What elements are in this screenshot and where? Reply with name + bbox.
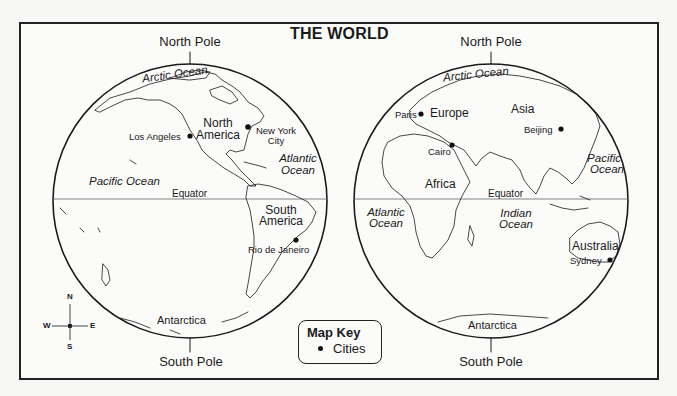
australia-label: Australia [572,240,619,253]
western-hemisphere [53,52,327,352]
city-dot-icon-new-york [245,124,251,130]
beijing-label: Beijing [524,124,553,135]
europe-label: Europe [430,107,469,120]
compass-north-label: N [67,292,73,301]
atlantic-ocean-label-east-line2: Ocean [369,217,403,230]
city-dot-icon-rio [293,237,298,242]
north-pole-label-west: North Pole [159,36,220,48]
atlantic-ocean-label-west-line2: Ocean [281,164,315,177]
south-america-label-line2: America [259,215,303,228]
equator-label-east: Equator [488,188,523,200]
south-pole-label-west: South Pole [159,356,223,368]
equator-label-west: Equator [172,188,207,200]
eastern-hemisphere [354,52,628,352]
compass-south-label: S [67,342,72,351]
pacific-ocean-label-west: Pacific Ocean [89,175,160,188]
los-angeles-label: Los Angeles [129,131,181,142]
north-america-label-line2: America [196,129,240,142]
cairo-label: Cairo [428,146,451,157]
pacific-ocean-label-east-line2: Ocean [590,163,624,176]
antarctica-label-east: Antarctica [468,319,517,332]
compass-rose-icon [52,304,88,340]
sydney-label: Sydney [570,255,602,266]
south-pole-label-east: South Pole [459,356,523,368]
new-york-label-line2: City [268,135,284,146]
city-dot-icon-beijing [558,126,563,131]
city-dot-icon [318,346,323,351]
map-title: THE WORLD [290,25,389,43]
map-key-cities-label: Cities [333,341,366,356]
antarctica-label-west: Antarctica [157,314,206,327]
north-pole-label-east: North Pole [460,36,521,48]
map-key: Map Key Cities [298,320,382,364]
asia-label: Asia [511,103,534,116]
city-dot-icon-paris [418,111,423,116]
city-dot-icon-sydney [607,257,612,262]
paris-label: Paris [395,109,417,120]
city-dot-icon-los-angeles [187,133,192,138]
africa-label: Africa [425,178,456,191]
compass-east-label: E [90,321,95,330]
indian-ocean-label-line2: Ocean [499,218,533,231]
compass-west-label: W [43,321,51,330]
map-key-title: Map Key [307,325,360,340]
rio-de-janeiro-label: Rio de Janeiro [248,244,309,255]
